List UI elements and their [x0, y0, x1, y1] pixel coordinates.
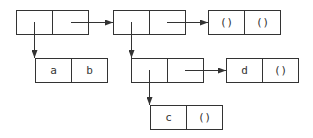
pair-3: () ()	[209, 11, 281, 35]
pair-7-car: c	[165, 111, 172, 124]
box-pointer-diagram: () () a b d () c ()	[0, 0, 313, 138]
pair-4: a b	[36, 59, 108, 83]
pair-4-car: a	[50, 64, 57, 77]
pair-4-cdr: b	[86, 64, 93, 77]
pair-7-cdr: ()	[198, 111, 211, 124]
pair-6-car: d	[241, 64, 248, 77]
pair-7: c ()	[151, 106, 223, 130]
pair-6: d ()	[227, 59, 299, 83]
pair-3-cdr: ()	[256, 16, 269, 29]
pair-6-cdr: ()	[274, 64, 287, 77]
pair-3-car: ()	[220, 16, 233, 29]
